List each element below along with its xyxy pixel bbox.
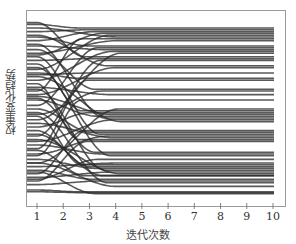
line-chart xyxy=(0,0,296,244)
x-tick-label: 10 xyxy=(266,210,280,223)
weight-trajectory-line xyxy=(27,73,284,75)
weight-trajectory-lines xyxy=(27,23,284,194)
y-axis-label: 权重变化趋势 xyxy=(4,62,20,142)
weight-trajectory-line xyxy=(27,24,284,28)
x-tick-label: 8 xyxy=(217,210,224,223)
x-tick-label: 6 xyxy=(165,210,172,223)
x-tick-label: 7 xyxy=(191,210,198,223)
x-tick-label: 4 xyxy=(112,210,119,223)
x-tick-label: 9 xyxy=(243,210,250,223)
x-tick-label: 3 xyxy=(86,210,93,223)
x-tick-label: 2 xyxy=(60,210,67,223)
x-axis-label: 迭代次数 xyxy=(0,226,296,242)
x-tick-label: 1 xyxy=(34,210,41,223)
x-tick-label: 5 xyxy=(138,210,145,223)
weight-trajectory-line xyxy=(27,192,284,193)
